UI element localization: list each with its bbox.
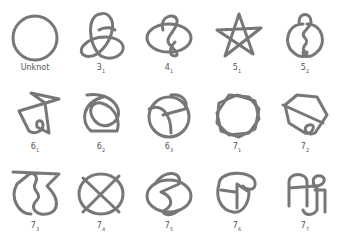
cinquefoil-knot-icon bbox=[209, 4, 265, 64]
knot-label: 72 bbox=[271, 142, 339, 153]
knot-label: 52 bbox=[271, 63, 339, 74]
knot-3-1: 31 bbox=[67, 0, 135, 80]
knot-6-3-icon bbox=[141, 83, 197, 143]
knot-label: 62 bbox=[67, 142, 135, 153]
knot-7-5: 75 bbox=[135, 158, 203, 238]
knot-6-3: 63 bbox=[135, 79, 203, 159]
knot-6-2-icon bbox=[73, 83, 129, 143]
knot-label: 51 bbox=[203, 63, 271, 74]
figure-eight-knot-icon bbox=[141, 4, 197, 64]
knot-label: 61 bbox=[1, 142, 69, 153]
unknot-icon bbox=[7, 4, 63, 64]
knot-7-2-icon bbox=[277, 83, 333, 143]
knot-6-1: 61 bbox=[1, 79, 69, 159]
knot-6-2: 62 bbox=[67, 79, 135, 159]
knot-5-2: 52 bbox=[271, 0, 339, 80]
knot-label: 73 bbox=[1, 221, 69, 232]
knot-7-7-icon bbox=[277, 162, 333, 222]
knot-7-5-icon bbox=[141, 162, 197, 222]
knot-label: 76 bbox=[203, 221, 271, 232]
knot-7-3-icon bbox=[7, 162, 63, 222]
knot-7-4-icon bbox=[73, 162, 129, 222]
knot-label: 41 bbox=[135, 63, 203, 74]
knot-7-1: 71 bbox=[203, 79, 271, 159]
knot-label: 77 bbox=[271, 221, 339, 232]
knot-label: 63 bbox=[135, 142, 203, 153]
knot-label: 74 bbox=[67, 221, 135, 232]
knot-7-2: 72 bbox=[271, 79, 339, 159]
knot-4-1: 41 bbox=[135, 0, 203, 80]
knot-7-3: 73 bbox=[1, 158, 69, 238]
three-twist-knot-icon bbox=[277, 4, 333, 64]
trefoil-knot-icon bbox=[73, 4, 129, 64]
knot-7-6-icon bbox=[209, 162, 265, 222]
knot-7-4: 74 bbox=[67, 158, 135, 238]
septafoil-knot-icon bbox=[209, 83, 265, 143]
knot-7-6: 76 bbox=[203, 158, 271, 238]
knot-label: 71 bbox=[203, 142, 271, 153]
knot-7-7: 77 bbox=[271, 158, 339, 238]
knot-label: 31 bbox=[67, 63, 135, 74]
knot-5-1: 51 bbox=[203, 0, 271, 80]
knot-label: 75 bbox=[135, 221, 203, 232]
knot-unknot: Unknot bbox=[1, 0, 69, 80]
stevedore-knot-icon bbox=[7, 83, 63, 143]
knot-label: Unknot bbox=[1, 63, 69, 72]
